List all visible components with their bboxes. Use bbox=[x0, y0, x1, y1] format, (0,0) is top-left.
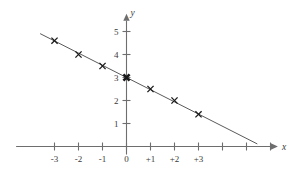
plot-canvas: -3-2-10+1+2+312345xy bbox=[0, 0, 299, 182]
x-tick-label: +1 bbox=[146, 154, 156, 164]
y-tick-label: 3 bbox=[114, 73, 119, 83]
x-tick-label: -1 bbox=[99, 154, 107, 164]
y-axis-label: y bbox=[130, 8, 136, 18]
x-axis bbox=[16, 143, 278, 149]
y-tick-label: 2 bbox=[114, 96, 119, 106]
x-tick-label: -3 bbox=[51, 154, 59, 164]
y-axis bbox=[123, 14, 129, 155]
y-tick-label: 4 bbox=[114, 50, 119, 60]
y-tick-label: 1 bbox=[114, 119, 119, 129]
chart-figure: -3-2-10+1+2+312345xy bbox=[0, 0, 299, 182]
x-tick-label: +2 bbox=[170, 154, 180, 164]
x-tick-label: 0 bbox=[124, 154, 129, 164]
x-tick-group: -3-2-10+1+2+3 bbox=[51, 143, 271, 164]
x-axis-label: x bbox=[281, 142, 287, 152]
data-point-marker bbox=[51, 38, 57, 44]
x-tick-label: -2 bbox=[75, 154, 83, 164]
x-tick-label: +3 bbox=[194, 154, 204, 164]
fit-line bbox=[40, 34, 257, 144]
y-tick-label: 5 bbox=[114, 27, 119, 37]
data-point-marker bbox=[195, 111, 201, 117]
